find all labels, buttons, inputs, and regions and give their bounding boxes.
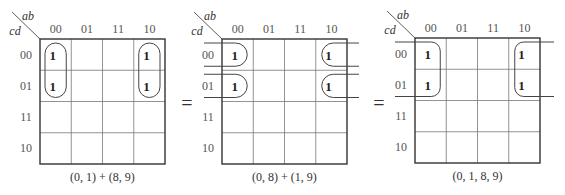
row-label: 10 bbox=[395, 140, 407, 154]
cell-value-one: 1 bbox=[424, 78, 431, 93]
col-label: 11 bbox=[294, 22, 306, 36]
row-label: 00 bbox=[395, 47, 407, 61]
col-label: 11 bbox=[487, 21, 499, 35]
row-label: 00 bbox=[20, 48, 32, 62]
row-label: 01 bbox=[395, 78, 407, 92]
col-label: 00 bbox=[425, 21, 437, 35]
row-label: 11 bbox=[20, 110, 32, 124]
kmap-caption: (0, 1) + (8, 9) bbox=[70, 170, 135, 184]
row-label: 11 bbox=[395, 109, 407, 123]
row-variable-label: cd bbox=[9, 24, 21, 38]
cell-value-one: 1 bbox=[518, 47, 525, 62]
cell-value-one: 1 bbox=[49, 79, 56, 94]
col-label: 00 bbox=[232, 22, 244, 36]
cell-value-one: 1 bbox=[518, 78, 525, 93]
col-label: 10 bbox=[518, 21, 530, 35]
col-label: 11 bbox=[112, 22, 124, 36]
col-label: 10 bbox=[143, 22, 155, 36]
col-label: 01 bbox=[263, 22, 275, 36]
col-variable-label: ab bbox=[397, 8, 409, 22]
cell-value-one: 1 bbox=[143, 48, 150, 63]
cell-value-one: 1 bbox=[49, 48, 56, 63]
col-label: 01 bbox=[456, 21, 468, 35]
col-label: 01 bbox=[81, 22, 93, 36]
kmap-diagram: abcd00011110000111101111(0, 1) + (8, 9) … bbox=[0, 0, 565, 195]
kmap-caption: (0, 1, 8, 9) bbox=[453, 169, 503, 183]
row-label: 01 bbox=[202, 79, 214, 93]
row-variable-label: cd bbox=[384, 23, 396, 37]
col-variable-label: ab bbox=[22, 9, 34, 23]
equals-sign-2: = bbox=[373, 92, 384, 114]
row-label: 10 bbox=[20, 141, 32, 155]
col-variable-label: ab bbox=[204, 9, 216, 23]
cell-value-one: 1 bbox=[325, 48, 332, 63]
col-label: 00 bbox=[50, 22, 62, 36]
kmap-1: abcd00011110000111101111(0, 1) + (8, 9) bbox=[9, 9, 165, 184]
row-variable-label: cd bbox=[191, 24, 203, 38]
kmap-2: abcd00011110000111101111(0, 8) + (1, 9) bbox=[191, 9, 359, 184]
cell-value-one: 1 bbox=[143, 79, 150, 94]
cell-value-one: 1 bbox=[231, 48, 238, 63]
kmap-3: abcd00011110000111101111(0, 1, 8, 9) bbox=[384, 8, 554, 183]
row-label: 10 bbox=[202, 141, 214, 155]
cell-value-one: 1 bbox=[231, 79, 238, 94]
row-label: 01 bbox=[20, 79, 32, 93]
equals-sign-1: = bbox=[181, 92, 192, 114]
row-label: 11 bbox=[202, 110, 214, 124]
kmap-caption: (0, 8) + (1, 9) bbox=[252, 170, 317, 184]
cell-value-one: 1 bbox=[325, 79, 332, 94]
row-label: 00 bbox=[202, 48, 214, 62]
cell-value-one: 1 bbox=[424, 47, 431, 62]
col-label: 10 bbox=[325, 22, 337, 36]
